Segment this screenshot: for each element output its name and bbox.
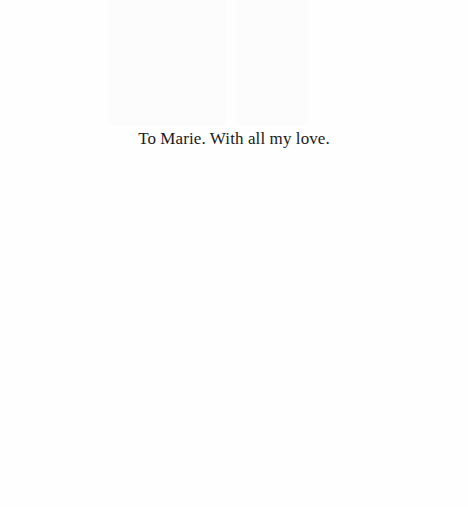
scan-bleed-through <box>236 0 308 125</box>
dedication-text: To Marie. With all my love. <box>0 129 468 149</box>
scan-bleed-through <box>108 0 226 125</box>
book-page: To Marie. With all my love. <box>0 0 468 507</box>
